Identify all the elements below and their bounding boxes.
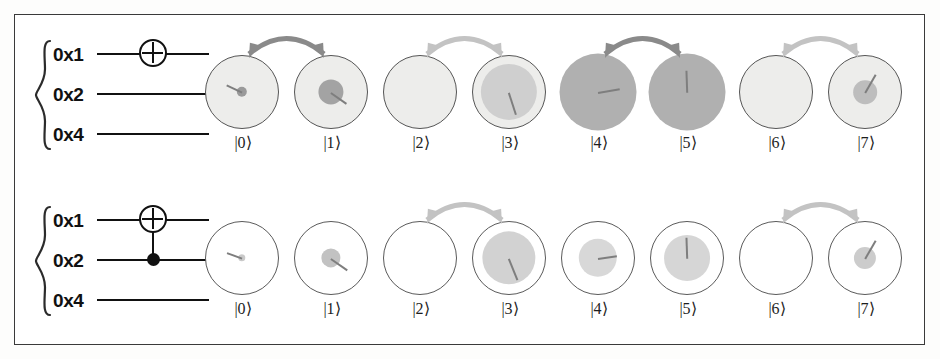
state-label: |5⟩ [646,133,730,152]
state-label: |6⟩ [735,299,819,318]
state-swap-arrow-2-3 [414,27,515,57]
wire-label-0x1: 0x1 [53,45,97,64]
state-circle-outline [561,55,635,129]
wire-group-bottom: 0x1 0x2 0x4 [53,203,213,318]
state-label: |3⟩ [468,299,552,318]
state-label: |0⟩ [201,133,285,152]
state-swap-arrow-0-1 [236,27,337,57]
wire-line-0x4 [97,299,209,301]
figure-canvas: 0x1 0x2 0x4 |0⟩|1⟩|2⟩|3⟩|4⟩|5⟩|6⟩|7⟩ [0,0,940,359]
wire-label-0x2: 0x2 [53,85,97,104]
state-label: |6⟩ [735,133,819,152]
wire-label-0x1: 0x1 [53,211,97,230]
state-circle-outline [739,221,813,295]
state-label: |4⟩ [557,133,641,152]
curly-brace-icon [33,39,55,151]
diagram-frame: 0x1 0x2 0x4 |0⟩|1⟩|2⟩|3⟩|4⟩|5⟩|6⟩|7⟩ [14,14,925,345]
state-circle-outline [205,55,279,129]
state-label: |4⟩ [557,299,641,318]
state-label: |7⟩ [824,133,908,152]
amplitude-circle-5: |5⟩ [646,195,730,335]
state-circle-outline [383,221,457,295]
wire-group-top: 0x1 0x2 0x4 [53,37,213,152]
amplitude-circle-0: |0⟩ [201,195,285,335]
not-gate-icon[interactable] [139,205,167,233]
state-circle-outline [650,221,724,295]
state-circle-outline [561,221,635,295]
state-circle-outline [650,55,724,129]
state-circle-outline [828,55,902,129]
state-label: |5⟩ [646,299,730,318]
register-bottom: 0x1 0x2 0x4 [33,203,208,318]
register-top: 0x1 0x2 0x4 [33,37,208,152]
control-dot-icon[interactable] [147,253,160,266]
amplitude-circle-4: |4⟩ [557,195,641,335]
wire-label-0x4: 0x4 [53,291,97,310]
state-circle-outline [294,55,368,129]
state-swap-arrow-6-7 [770,193,871,223]
state-circle-outline [472,55,546,129]
state-swap-arrow-6-7 [770,27,871,57]
state-label: |3⟩ [468,133,552,152]
wire-label-0x2: 0x2 [53,251,97,270]
state-circle-outline [294,221,368,295]
wire-line-0x2 [97,93,209,95]
state-label: |1⟩ [290,299,374,318]
wire-line-0x4 [97,133,209,135]
wire-label-0x4: 0x4 [53,125,97,144]
circuit-row-x-gate: 0x1 0x2 0x4 |0⟩|1⟩|2⟩|3⟩|4⟩|5⟩|6⟩|7⟩ [15,15,926,181]
not-gate-icon[interactable] [139,39,167,67]
circuit-row-cnot-gate: 0x1 0x2 0x4 |0⟩|1⟩|2⟩|3⟩|4⟩|5⟩|6⟩|7⟩ [15,181,926,346]
state-label: |7⟩ [824,299,908,318]
state-label: |2⟩ [379,133,463,152]
state-circle-outline [472,221,546,295]
state-circle-outline [739,55,813,129]
state-label: |2⟩ [379,299,463,318]
state-swap-arrow-2-3 [414,193,515,223]
state-label: |0⟩ [201,299,285,318]
state-circle-outline [828,221,902,295]
curly-brace-icon [33,205,55,317]
state-label: |1⟩ [290,133,374,152]
state-circle-outline [205,221,279,295]
state-circle-outline [383,55,457,129]
state-swap-arrow-4-5 [592,27,693,57]
amplitude-circle-1: |1⟩ [290,195,374,335]
